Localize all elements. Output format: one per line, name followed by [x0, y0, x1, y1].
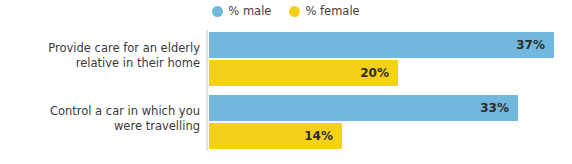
bar-value-label: 33%	[480, 102, 518, 115]
bar-value-label: 20%	[360, 67, 398, 80]
category-label-line2: were travelling	[6, 119, 200, 134]
category-group: Provide care for an elderly relative in …	[0, 32, 572, 86]
bar-female[interactable]: 14%	[209, 123, 342, 149]
bar-value-label: 14%	[304, 130, 342, 143]
bar-male[interactable]: 37%	[209, 32, 554, 58]
category-group: Control a car in which you were travelli…	[0, 95, 572, 149]
plot-area: Provide care for an elderly relative in …	[0, 0, 572, 164]
bar-male[interactable]: 33%	[209, 95, 518, 121]
bar-chart: % male % female Provide care for an elde…	[0, 0, 572, 164]
category-label: Control a car in which you were travelli…	[6, 104, 200, 133]
bar-female[interactable]: 20%	[209, 60, 398, 86]
category-label-line1: Control a car in which you	[6, 104, 200, 119]
category-label: Provide care for an elderly relative in …	[6, 41, 200, 70]
bar-value-label: 37%	[516, 39, 554, 52]
category-label-line2: relative in their home	[6, 56, 200, 71]
category-label-line1: Provide care for an elderly	[6, 41, 200, 56]
